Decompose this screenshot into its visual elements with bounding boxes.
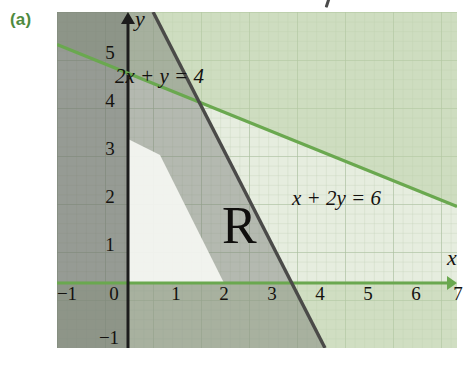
equation-label-x-plus-2y: x + 2y = 6 bbox=[292, 186, 381, 211]
x-tick-label-0: 0 bbox=[102, 283, 126, 305]
x-tick-label--1: −1 bbox=[55, 283, 79, 305]
y-tick-label--1: −1 bbox=[96, 327, 122, 349]
x-tick-label-6: 6 bbox=[404, 283, 428, 305]
equation-label-2x-plus-y: 2x + y = 4 bbox=[115, 64, 204, 89]
top-bleed-area bbox=[0, 0, 476, 12]
y-tick-label-2: 2 bbox=[98, 186, 122, 208]
x-tick-label-3: 3 bbox=[260, 283, 284, 305]
x-tick-label-2: 2 bbox=[212, 283, 236, 305]
figure-panel: (a) bbox=[0, 0, 476, 375]
feasible-region-label: R bbox=[222, 200, 257, 252]
x-tick-label-5: 5 bbox=[356, 283, 380, 305]
x-tick-label-4: 4 bbox=[308, 283, 332, 305]
x-tick-label-1: 1 bbox=[164, 283, 188, 305]
cropped-descender-mark bbox=[325, 0, 335, 8]
y-tick-label-4: 4 bbox=[98, 90, 122, 112]
x-axis-label: x bbox=[447, 245, 457, 271]
y-tick-label-1: 1 bbox=[98, 234, 122, 256]
y-tick-label-3: 3 bbox=[98, 138, 122, 160]
x-tick-label-7: 7 bbox=[446, 283, 470, 305]
y-tick-label-5: 5 bbox=[98, 42, 122, 64]
panel-label: (a) bbox=[10, 10, 31, 30]
